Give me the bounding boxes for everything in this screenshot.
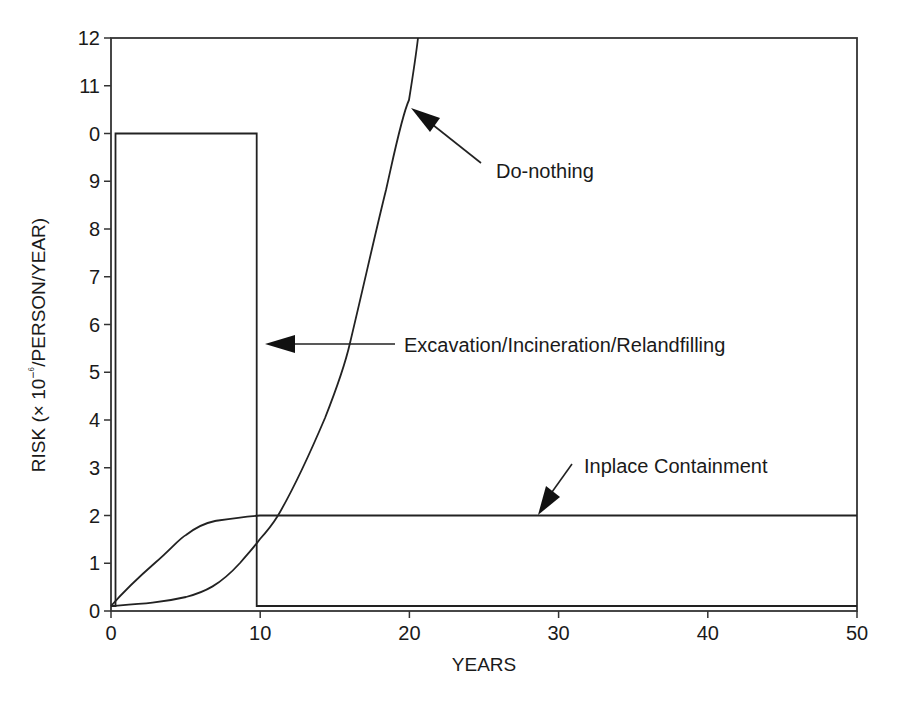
series-excavation bbox=[111, 134, 857, 607]
y-tick-label: 5 bbox=[89, 361, 100, 383]
y-tick: 8 bbox=[89, 218, 111, 240]
y-tick-label: 9 bbox=[89, 170, 100, 192]
x-tick: 10 bbox=[249, 611, 271, 644]
x-tick: 40 bbox=[697, 611, 719, 644]
y-tick: 11 bbox=[79, 75, 111, 97]
annotation-inplace: Inplace Containment bbox=[538, 455, 768, 515]
arrowhead-icon bbox=[538, 486, 560, 515]
y-axis-title: RISK (× 10−⁶/PERSON/YEAR) bbox=[26, 218, 49, 472]
y-tick: 6 bbox=[89, 314, 111, 336]
y-tick: 0 bbox=[89, 600, 111, 622]
y-tick: 4 bbox=[89, 409, 111, 431]
x-tick-label: 50 bbox=[846, 622, 868, 644]
y-tick: 0 bbox=[89, 123, 111, 145]
label-do-nothing: Do-nothing bbox=[496, 160, 594, 182]
x-tick-label: 20 bbox=[398, 622, 420, 644]
risk-chart: 0 1 2 3 4 5 6 7 8 9 0 11 12 0 10 20 30 4… bbox=[0, 0, 901, 709]
y-tick-label: 4 bbox=[89, 409, 100, 431]
annotation-excavation: Excavation/Incineration/Relandfilling bbox=[265, 334, 725, 356]
x-tick-label: 10 bbox=[249, 622, 271, 644]
y-tick-label: 7 bbox=[89, 266, 100, 288]
x-tick: 50 bbox=[846, 611, 868, 644]
arrowhead-icon bbox=[411, 108, 440, 132]
label-inplace: Inplace Containment bbox=[584, 455, 768, 477]
y-tick-label: 6 bbox=[89, 314, 100, 336]
plot-frame bbox=[111, 38, 857, 611]
y-tick: 1 bbox=[89, 552, 111, 574]
x-tick: 20 bbox=[398, 611, 420, 644]
y-tick: 3 bbox=[89, 457, 111, 479]
arrowhead-icon bbox=[265, 335, 295, 353]
x-tick-label: 40 bbox=[697, 622, 719, 644]
y-tick: 5 bbox=[89, 361, 111, 383]
label-excavation: Excavation/Incineration/Relandfilling bbox=[404, 334, 725, 356]
y-tick: 2 bbox=[89, 505, 111, 527]
x-tick: 0 bbox=[105, 611, 116, 644]
x-tick-label: 0 bbox=[105, 622, 116, 644]
y-tick-label: 0 bbox=[89, 123, 100, 145]
y-axis: 0 1 2 3 4 5 6 7 8 9 0 11 12 bbox=[78, 27, 111, 622]
y-tick: 9 bbox=[89, 170, 111, 192]
y-tick-label: 11 bbox=[79, 75, 100, 97]
y-tick: 7 bbox=[89, 266, 111, 288]
y-tick-label: 1 bbox=[89, 552, 100, 574]
y-tick-label: 2 bbox=[89, 505, 100, 527]
y-tick-label: 0 bbox=[89, 600, 100, 622]
x-axis: 0 10 20 30 40 50 bbox=[105, 611, 868, 644]
y-tick-label: 8 bbox=[89, 218, 100, 240]
series-inplace-containment bbox=[111, 516, 857, 607]
y-tick-label: 12 bbox=[78, 27, 100, 49]
x-tick-label: 30 bbox=[547, 622, 569, 644]
x-axis-title: YEARS bbox=[452, 654, 516, 675]
x-tick: 30 bbox=[547, 611, 569, 644]
y-tick: 12 bbox=[78, 27, 111, 49]
series-do-nothing bbox=[111, 38, 418, 606]
y-tick-label: 3 bbox=[89, 457, 100, 479]
annotation-do-nothing: Do-nothing bbox=[411, 108, 594, 182]
